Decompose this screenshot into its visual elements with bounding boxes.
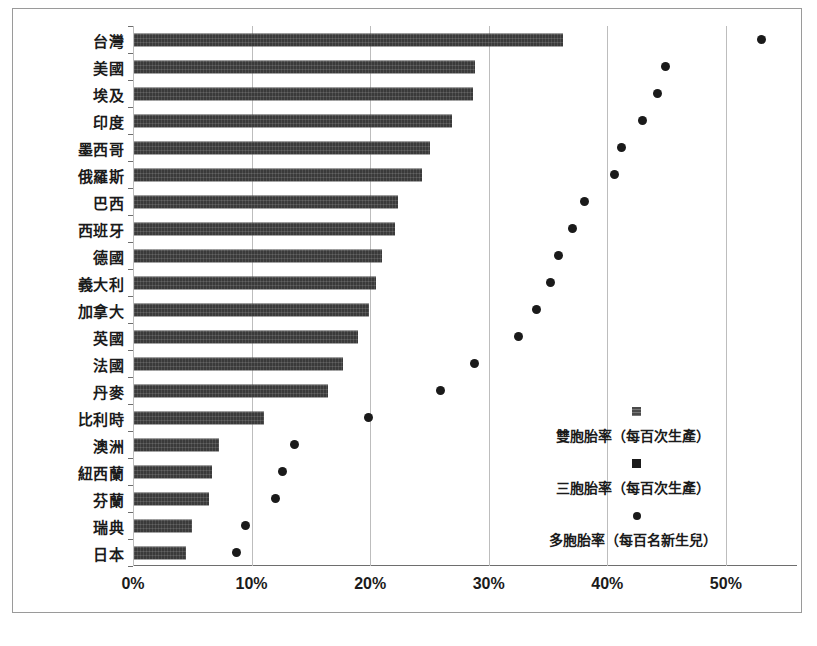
y-axis-tick [128,404,133,405]
dot-日本 [232,548,241,557]
legend-entry-triplets: 三胞胎率（每百次生產） [508,457,758,509]
bar-比利時 [134,411,264,424]
dot-埃及 [653,89,662,98]
bar-瑞典 [134,519,192,532]
y-axis-tick [128,377,133,378]
y-axis-label: 瑞典 [93,515,124,536]
x-axis-label-10pct: 10% [236,575,268,593]
x-axis-label-30pct: 30% [473,575,505,593]
y-axis-tick [128,296,133,297]
y-axis-tick [128,26,133,27]
chart-row: 巴西 [133,188,797,215]
y-axis-label: 丹麥 [93,380,124,401]
bar-巴西 [134,195,398,208]
dot-印度 [638,116,647,125]
bar-加拿大 [134,303,369,316]
y-axis-label: 印度 [93,110,124,131]
y-axis-label: 德國 [93,245,124,266]
legend-entry-multiples: 多胞胎率（每百名新生兒） [508,509,758,561]
dot-義大利 [546,278,555,287]
bar-法國 [134,357,343,370]
x-axis-label-40pct: 40% [591,575,623,593]
y-axis-label: 芬蘭 [93,488,124,509]
legend-label-twins: 雙胞胎率（每百次生產） [508,425,758,445]
y-axis-label: 台灣 [93,29,124,50]
dot-墨西哥 [617,143,626,152]
bar-日本 [134,546,186,559]
dot-巴西 [580,197,589,206]
chart-row: 埃及 [133,80,797,107]
y-axis-tick [128,134,133,135]
dot-比利時 [364,413,373,422]
y-axis-label: 日本 [93,542,124,563]
x-axis-label-0pct: 0% [121,575,144,593]
y-axis-tick [128,458,133,459]
dot-加拿大 [532,305,541,314]
bar-澳洲 [134,438,219,451]
y-axis-tick [128,485,133,486]
bar-丹麥 [134,384,328,397]
legend-square-hatched-icon [630,405,644,419]
bar-德國 [134,249,382,262]
dot-德國 [554,251,563,260]
bar-埃及 [134,87,473,100]
bar-英國 [134,330,358,343]
dot-台灣 [757,35,766,44]
y-axis-label: 義大利 [78,272,125,293]
bar-美國 [134,60,475,73]
y-axis-label: 法國 [93,353,124,374]
x-axis-tick-labels: 0%10%20%30%40%50% [133,575,797,601]
y-axis-label: 紐西蘭 [78,461,125,482]
y-axis-label: 西班牙 [78,218,125,239]
y-axis-tick [128,269,133,270]
chart-row: 俄羅斯 [133,161,797,188]
chart-frame: 台灣美國埃及印度墨西哥俄羅斯巴西西班牙德國義大利加拿大英國法國丹麥比利時澳洲紐西… [12,8,802,613]
chart-row: 印度 [133,107,797,134]
bar-俄羅斯 [134,168,422,181]
y-axis-tick [128,566,133,567]
y-axis-tick [128,539,133,540]
dot-英國 [514,332,523,341]
y-axis-tick [128,53,133,54]
y-axis-label: 澳洲 [93,434,124,455]
bar-芬蘭 [134,492,209,505]
y-axis-tick [128,242,133,243]
chart-row: 西班牙 [133,215,797,242]
y-axis-tick [128,512,133,513]
y-axis-tick [128,215,133,216]
chart-legend: 雙胞胎率（每百次生產） 三胞胎率（每百次生產） 多胞胎率（每百名新生兒） [508,405,758,561]
chart-row: 法國 [133,350,797,377]
bar-墨西哥 [134,141,430,154]
y-axis-label: 俄羅斯 [78,164,125,185]
dot-紐西蘭 [278,467,287,476]
y-axis-tick [128,80,133,81]
dot-瑞典 [241,521,250,530]
chart-row: 丹麥 [133,377,797,404]
chart-row: 英國 [133,323,797,350]
dot-法國 [470,359,479,368]
chart-row: 德國 [133,242,797,269]
y-axis-tick [128,188,133,189]
y-axis-label: 英國 [93,326,124,347]
legend-square-solid-icon [630,457,644,471]
y-axis-tick [128,161,133,162]
dot-西班牙 [568,224,577,233]
bar-義大利 [134,276,376,289]
y-axis-tick [128,323,133,324]
chart-row: 義大利 [133,269,797,296]
x-axis-label-20pct: 20% [354,575,386,593]
chart-row: 美國 [133,53,797,80]
y-axis-label: 加拿大 [78,299,125,320]
legend-circle-icon [630,509,644,523]
y-axis-tick [128,350,133,351]
y-axis-label: 比利時 [78,407,125,428]
dot-俄羅斯 [610,170,619,179]
y-axis-label: 墨西哥 [78,137,125,158]
legend-label-multiples: 多胞胎率（每百名新生兒） [508,529,758,549]
y-axis-label: 美國 [93,56,124,77]
bar-紐西蘭 [134,465,212,478]
bar-西班牙 [134,222,395,235]
x-axis-label-50pct: 50% [710,575,742,593]
y-axis-tick [128,107,133,108]
y-axis-label: 埃及 [93,83,124,104]
